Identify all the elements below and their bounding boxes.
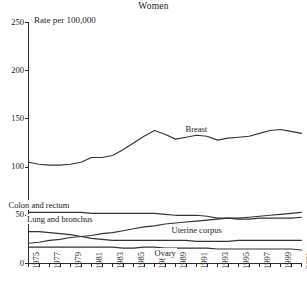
x-tick-1979: 1979 [74, 252, 83, 269]
x-tick-1981: 1981 [95, 252, 104, 269]
x-tick-1999: 1999 [284, 252, 293, 269]
x-tick-1993: 1993 [221, 252, 230, 269]
annotation-ovary: Ovary [154, 248, 177, 258]
annotation-lung-and-bronchus: Lung and bronchus [26, 214, 94, 224]
y-tick-100: 100 [0, 162, 24, 171]
axes [25, 23, 302, 268]
x-tick-1995: 1995 [242, 252, 251, 269]
x-tick-1977: 1977 [53, 252, 62, 269]
chart-figure: Women Rate per 100,000 050100150200250 1… [0, 0, 307, 300]
x-tick-1983: 1983 [116, 252, 125, 269]
annotation-colon-and-rectum: Colon and rectum [8, 200, 71, 210]
x-tick-1989: 1989 [179, 252, 188, 269]
annotation-breast: Breast [185, 124, 209, 134]
x-tick-1985: 1985 [137, 252, 146, 269]
y-tick-250: 250 [0, 18, 24, 27]
x-tick-1991: 1991 [200, 252, 209, 269]
x-tick-1997: 1997 [263, 252, 272, 269]
y-tick-150: 150 [0, 114, 24, 123]
series-line-uterine-corpus [29, 232, 302, 242]
y-tick-200: 200 [0, 66, 24, 75]
y-tick-50: 50 [0, 210, 24, 219]
series-line-breast [29, 130, 302, 166]
x-tick-2001: 2001 [305, 252, 307, 269]
annotation-uterine-corpus: Uterine corpus [171, 225, 223, 235]
x-tick-1975: 1975 [32, 252, 41, 269]
y-tick-0: 0 [0, 259, 24, 268]
series-lines [29, 130, 302, 251]
